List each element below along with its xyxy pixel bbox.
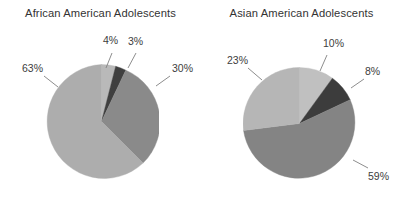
- pie-label-59-percent: 59%: [368, 170, 389, 182]
- pie-label-30-percent: 30%: [172, 62, 193, 74]
- pie-asian-american: [243, 67, 356, 180]
- chart-title-african-american: African American Adolescents: [0, 6, 201, 20]
- chart-title-asian-american: Asian American Adolescents: [201, 6, 402, 20]
- pie-svg-african-american: [44, 64, 159, 179]
- pie-label-8-percent: 8%: [365, 65, 380, 77]
- pie-slice-4-asian-american: [243, 67, 299, 130]
- pie-african-american: [44, 64, 159, 179]
- pie-label-10-percent: 10%: [323, 37, 344, 49]
- pie-label-3-percent: 3%: [128, 35, 143, 47]
- pie-label-63-percent: 63%: [22, 62, 43, 74]
- pie-chart-figure: African American Adolescents 4% 3% 30: [0, 0, 402, 203]
- pie-label-4-percent: 4%: [103, 34, 118, 46]
- chart-panel-african-american: African American Adolescents 4% 3% 30: [0, 0, 201, 203]
- pie-label-23-percent: 23%: [227, 54, 248, 66]
- pie-svg-asian-american: [243, 67, 356, 180]
- chart-panel-asian-american: Asian American Adolescents 10% 8% 59%: [201, 0, 402, 203]
